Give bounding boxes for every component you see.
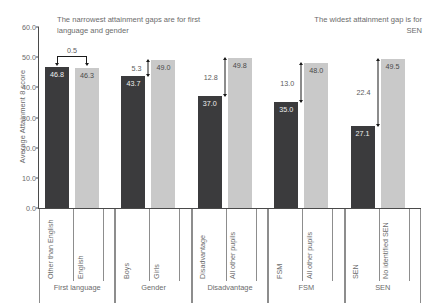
bar-value-label: 49.0 [151,63,175,72]
bar-value-label: 49.8 [228,61,252,70]
gap-value-label: 5.3 [131,64,141,73]
attainment-gap-bar-chart: Average Attainment 8 score 60.050.040.03… [0,0,424,304]
gap-bracket-top [57,56,87,57]
gap-arrow-up-icon [299,62,303,65]
category-label: Girls [152,264,161,279]
annotation-widest-gap: The widest attainment gap is for SEN [300,14,422,36]
bar-value-label: 37.0 [198,99,222,108]
bar-value-label: 46.8 [45,70,69,79]
gap-arrow-up-icon [146,59,150,62]
bar-value-label: 46.3 [75,71,99,80]
category-label: All other pupils [305,232,314,279]
gap-arrow-right-icon [85,63,89,66]
group-cell-first-language: Other than EnglishEnglishFirst language [39,209,115,303]
category-label: SEN [351,264,360,279]
category-label: Boys [122,263,131,279]
y-axis-tick-label: 50.0 [2,53,36,62]
gap-indicator-fsm: 13.0 [296,63,306,102]
gap-arrow-left-icon [55,63,59,66]
gap-indicator-first-language: 0.5 [57,56,87,63]
group-cell-gender: BoysGirlsGender [115,209,191,303]
gap-bracket-leg-right [86,56,87,63]
gap-bracket-leg-left [57,56,58,63]
category-cell: Other than English [44,209,74,281]
category-cell: Girls [150,209,180,281]
gap-value-label: 12.8 [204,73,218,82]
group-cell-sen: SENNo identified SENSEN [345,209,421,303]
y-axis-tick-label: 40.0 [2,83,36,92]
bar-all-other-pupils: 49.8 [228,58,252,208]
category-cell: SEN [350,209,380,281]
group-cell-fsm: FSMAll other pupilsFSM [268,209,344,303]
bar-fsm: 35.0 [274,102,298,208]
gap-value-label: 22.4 [357,88,371,97]
gap-arrow-down-icon [146,74,150,77]
bar-all-other-pupils: 48.0 [304,63,328,208]
bar-english: 46.3 [75,68,99,208]
y-axis-tick-label: 0.0 [2,204,36,213]
category-label-grid: Other than EnglishEnglishFirst languageB… [39,209,421,303]
bar-girls: 49.0 [151,60,175,208]
bar-other-than-english: 46.8 [45,67,69,208]
category-label: Disadvantage [198,235,207,279]
group-name-label: Disadvantage [193,283,267,292]
category-cell: Boys [120,209,150,281]
gap-arrow-up-icon [376,58,380,61]
gap-arrow-stem [301,63,302,102]
bar-sen: 27.1 [351,126,375,208]
gap-indicator-disadvantage: 12.8 [220,58,230,97]
bar-disadvantage: 37.0 [198,96,222,208]
group-name-label: FSM [269,283,343,292]
category-cell: English [74,209,104,281]
y-axis-tick-label: 60.0 [2,23,36,32]
category-cell: Disadvantage [197,209,227,281]
gap-arrow-down-icon [376,124,380,127]
bar-value-label: 35.0 [274,105,298,114]
bar-value-label: 43.7 [121,79,145,88]
bar-value-label: 27.1 [351,129,375,138]
group-name-label: Gender [116,283,190,292]
group-name-label: First language [40,283,114,292]
gap-indicator-sen: 22.4 [373,59,383,127]
gap-value-label: 0.5 [67,46,77,55]
y-axis-tick-label: 30.0 [2,113,36,122]
gap-arrow-down-icon [223,94,227,97]
category-cell: No identified SEN [380,209,410,281]
category-cell: FSM [273,209,303,281]
bar-no-identified-sen: 49.5 [381,59,405,208]
gap-arrow-stem [224,58,225,97]
category-cell: All other pupils [227,209,257,281]
gap-indicator-gender: 5.3 [143,60,153,76]
bar-boys: 43.7 [121,76,145,208]
y-axis-tick-label: 10.0 [2,173,36,182]
category-label: English [76,255,85,279]
gap-arrow-up-icon [223,57,227,60]
group-name-label: SEN [346,283,420,292]
annotation-narrowest-gaps: The narrowest attainment gaps are for fi… [57,14,207,36]
y-axis-ticks: 60.050.040.030.020.010.00.0 [0,0,36,304]
category-cell: All other pupils [303,209,333,281]
gap-arrow-down-icon [299,100,303,103]
gap-value-label: 13.0 [280,78,294,87]
group-cell-disadvantage: DisadvantageAll other pupilsDisadvantage [192,209,268,303]
gap-arrow-stem [377,59,378,127]
bar-value-label: 49.5 [381,62,405,71]
y-axis-tick-label: 20.0 [2,143,36,152]
bar-value-label: 48.0 [304,66,328,75]
category-label: No identified SEN [381,222,390,279]
category-label: Other than English [46,219,55,279]
plot-area: 46.846.30.543.749.05.337.049.812.835.048… [39,27,421,208]
category-label: All other pupils [228,232,237,279]
category-label: FSM [275,264,284,279]
